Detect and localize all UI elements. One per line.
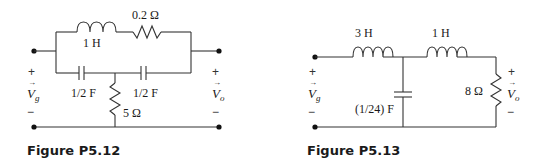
vg-arrow-2: → — [309, 78, 317, 87]
vo-plus: + — [212, 65, 219, 79]
resistor-5ohm-icon — [110, 83, 120, 115]
capacitor-left-icon — [79, 66, 84, 80]
vg-plus: + — [28, 65, 35, 79]
vo-minus-2: − — [507, 105, 514, 119]
vo-arrow: → — [213, 78, 221, 87]
vg-minus-2: − — [308, 105, 315, 119]
series-resistor-label: 0.2 Ω — [132, 8, 159, 22]
shunt-resistor-label: 5 Ω — [123, 106, 141, 120]
vo-minus: − — [212, 105, 219, 119]
capacitor-label: (1/24) F — [355, 102, 394, 116]
output-terminal-top — [216, 48, 221, 53]
capacitor-left-label: 1/2 F — [71, 86, 96, 100]
inductor-right-label: 1 H — [432, 26, 450, 40]
resistor-0-2ohm-icon — [133, 26, 161, 38]
inductor-label: 1 H — [83, 36, 101, 50]
inductor-3h-icon — [353, 47, 393, 57]
figure-caption-p5-12: Figure P5.12 — [27, 143, 120, 158]
vg-arrow: → — [28, 78, 36, 87]
input-terminal-bottom — [31, 124, 36, 129]
inductor-left-label: 3 H — [355, 26, 373, 40]
capacitor-1-24f-icon — [394, 92, 412, 97]
vo-label: Vo — [212, 86, 225, 103]
load-resistor-label: 8 Ω — [465, 84, 483, 98]
output-terminal-bottom — [216, 124, 221, 129]
capacitor-right-label: 1/2 F — [133, 86, 158, 100]
vo-plus-2: + — [508, 65, 515, 79]
figure-caption-p5-13: Figure P5.13 — [307, 143, 400, 158]
vg-plus-2: + — [309, 65, 316, 79]
vg-label-2: Vg — [308, 86, 321, 103]
capacitor-right-icon — [141, 66, 146, 80]
inductor-1h-icon-2 — [427, 47, 467, 57]
inductor-1h-icon — [77, 22, 116, 32]
vo-label-2: Vo — [507, 86, 520, 103]
vg-minus: − — [27, 105, 34, 119]
vg-label: Vg — [27, 86, 40, 103]
figure-p5-13: 3 H 1 H (1/24) F 8 Ω + Vg → − + Vo → − F… — [307, 26, 520, 158]
resistor-8ohm-icon — [491, 74, 501, 106]
vo-arrow-2: → — [508, 78, 516, 87]
figure-p5-12: 1 H 0.2 Ω 1/2 F 1/2 F 5 Ω + Vg − → + Vo … — [27, 8, 225, 158]
input-terminal-bottom-2 — [312, 124, 317, 129]
